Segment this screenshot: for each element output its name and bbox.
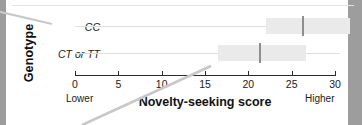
median-line-ct-or-tt — [259, 43, 261, 63]
x-tick-label-10: 10 — [147, 78, 177, 90]
plot-area — [75, 8, 335, 76]
x-tick-label-15: 15 — [190, 78, 220, 90]
x-tick-0 — [75, 71, 76, 76]
x-axis-title: Novelty-seeking score — [75, 95, 335, 109]
median-line-cc — [302, 16, 304, 36]
x-tick-5 — [118, 71, 119, 76]
box-ct-or-tt — [218, 45, 306, 61]
x-tick-label-30: 30 — [320, 78, 350, 90]
x-tick-15 — [205, 71, 206, 76]
x-tick-30 — [335, 71, 336, 76]
panel-top-edge — [12, 5, 354, 6]
page-gutter-right — [348, 0, 362, 125]
x-tick-10 — [162, 71, 163, 76]
x-tick-label-0: 0 — [60, 78, 90, 90]
box-cc — [266, 18, 350, 34]
x-tick-25 — [292, 71, 293, 76]
x-tick-label-25: 25 — [277, 78, 307, 90]
figure-root: Genotype CC CT or TT 051015202530 Lower … — [0, 0, 362, 125]
x-tick-label-20: 20 — [233, 78, 263, 90]
x-tick-label-5: 5 — [103, 78, 133, 90]
x-tick-20 — [248, 71, 249, 76]
